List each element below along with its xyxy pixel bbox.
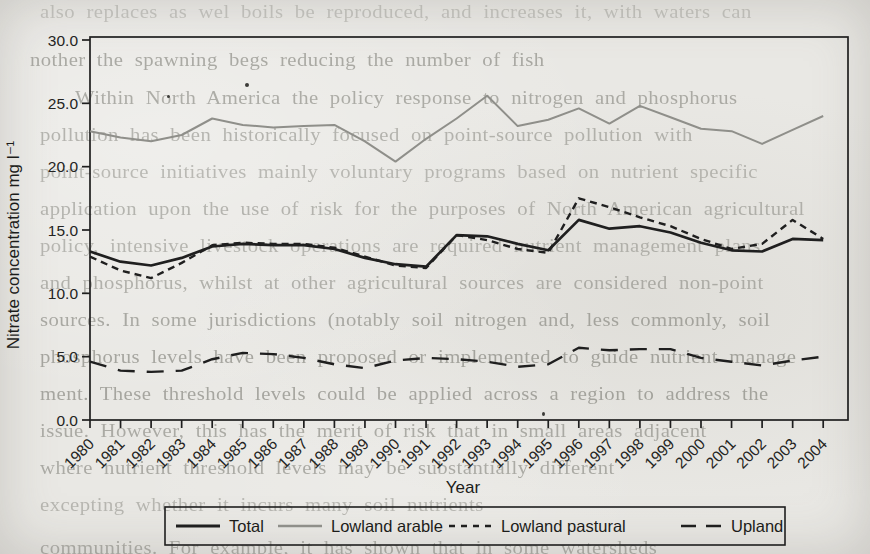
y-tick-label: 25.0 [48,95,79,112]
y-tick-label: 30.0 [48,32,79,49]
x-tick-label: 1994 [488,435,525,472]
x-tick-label: 1990 [366,435,403,472]
y-tick-label: 15.0 [48,222,79,239]
x-tick-label: 1991 [397,435,433,471]
scanned-page: also replaces as wel boils be reproduced… [0,0,870,554]
x-tick-label: 1983 [152,435,188,471]
series-line-lowland-pastural [90,198,823,278]
legend-label: Lowland pastural [501,517,626,535]
legend-label: Lowland arable [331,517,443,535]
x-tick-label: 1982 [122,435,158,471]
x-tick-label: 1997 [580,435,616,471]
x-tick-label: 2000 [672,435,709,472]
y-axis-title: Nitrate concentration mg l⁻¹ [4,140,23,349]
series-line-lowland-arable [90,96,823,162]
y-tick-label: 5.0 [56,348,78,365]
x-tick-label: 1988 [305,435,341,471]
x-tick-label: 1980 [61,435,98,472]
x-tick-label: 1987 [275,435,311,471]
scan-speck [398,450,401,453]
nitrate-concentration-chart: 0.05.010.015.020.025.030.019801981198219… [0,0,870,554]
x-tick-label: 1981 [91,435,127,471]
x-tick-label: 1995 [519,435,555,471]
x-tick-label: 2001 [702,435,738,471]
legend-label: Total [229,517,264,535]
series-line-upland [90,348,823,372]
x-tick-label: 1998 [611,435,647,471]
x-tick-label: 2003 [763,435,799,471]
x-tick-label: 1986 [244,435,280,471]
scan-speck [245,83,249,87]
x-tick-label: 1993 [458,435,494,471]
x-tick-label: 1996 [550,435,586,471]
scan-speck [167,95,170,98]
series-line-total [90,220,823,267]
x-tick-label: 2002 [733,435,769,471]
x-tick-label: 2004 [794,435,831,472]
x-tick-label: 1999 [641,435,677,471]
x-tick-label: 1989 [336,435,372,471]
x-tick-label: 1992 [427,435,463,471]
y-tick-label: 20.0 [48,158,79,175]
scan-speck [542,412,545,416]
x-axis-title: Year [446,478,481,497]
x-tick-label: 1984 [183,435,220,472]
y-tick-label: 10.0 [48,285,79,302]
y-tick-label: 0.0 [56,412,78,429]
x-tick-label: 1985 [213,435,249,471]
legend-label: Upland [731,517,783,535]
